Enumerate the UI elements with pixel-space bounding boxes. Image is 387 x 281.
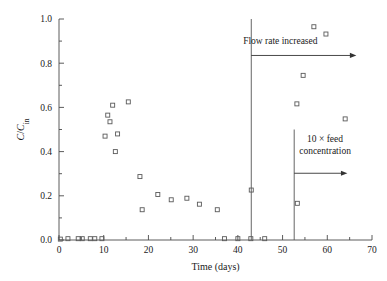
x-tick-label-20: 20	[144, 245, 154, 255]
data-point	[106, 113, 110, 117]
y-tick-label-0.2: 0.2	[40, 191, 52, 201]
annotations: Flow rate increased10 × feedconcentratio…	[243, 36, 356, 175]
y-axis-title: C/Cin	[15, 118, 31, 140]
data-point	[103, 134, 107, 138]
data-point	[113, 150, 117, 154]
data-point	[324, 32, 328, 36]
axes	[59, 19, 372, 240]
x-tick-label-70: 70	[367, 245, 377, 255]
x-tick-label-40: 40	[233, 245, 243, 255]
feed-concentration-annotation-text: 10 × feedconcentration	[299, 134, 351, 156]
x-tick-label-0: 0	[57, 245, 62, 255]
data-point	[116, 132, 120, 136]
data-point	[343, 117, 347, 121]
x-axis-title: Time (days)	[191, 261, 239, 273]
y-tick-label-0: 0.0	[40, 235, 52, 245]
flow-rate-increased-annotation-arrowhead	[350, 53, 357, 58]
x-tick-label-50: 50	[278, 245, 288, 255]
chart-figure: 0102030405060700.00.20.40.60.81.0 Flow r…	[0, 0, 387, 281]
data-point	[197, 202, 201, 206]
data-point	[169, 198, 173, 202]
tick-marks	[59, 19, 372, 240]
data-point	[108, 120, 112, 124]
x-tick-label-60: 60	[323, 245, 333, 255]
data-point	[138, 175, 142, 179]
data-point	[185, 196, 189, 200]
data-point	[301, 73, 305, 77]
x-tick-label-10: 10	[99, 245, 109, 255]
y-tick-label-1: 1.0	[40, 14, 52, 24]
data-point	[156, 192, 160, 196]
y-tick-label-0.6: 0.6	[40, 103, 52, 113]
y-tick-label-0.8: 0.8	[40, 59, 52, 69]
flow-rate-increased-annotation-text: Flow rate increased	[243, 36, 318, 46]
data-point	[126, 100, 130, 104]
data-point	[140, 208, 144, 212]
data-points	[58, 25, 347, 241]
scatter-plot: 0102030405060700.00.20.40.60.81.0 Flow r…	[0, 0, 387, 281]
data-point	[312, 25, 316, 29]
data-point	[215, 208, 219, 212]
data-point	[111, 103, 115, 107]
y-tick-label-0.4: 0.4	[40, 147, 52, 157]
feed-concentration-annotation-arrowhead	[341, 171, 348, 176]
event-lines	[251, 19, 294, 240]
data-point	[295, 102, 299, 106]
data-point	[295, 201, 299, 205]
x-tick-label-30: 30	[188, 245, 198, 255]
